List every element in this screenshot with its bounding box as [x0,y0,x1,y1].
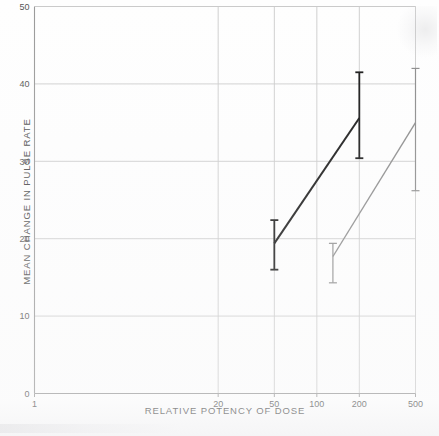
y-tick-label: 0 [24,389,29,399]
y-tick-label: 40 [19,79,29,89]
y-axis-title: MEAN CHANGE IN PULSE RATE [21,102,32,302]
y-tick-label: 10 [19,311,29,321]
x-axis-title: RELATIVE POTENCY OF DOSE [34,405,416,416]
y-tick-label: 50 [19,2,29,12]
data-line-series-grey [333,123,416,257]
line-chart-plot: 0102030405012050100200500 [0,0,439,436]
chart-figure: 0102030405012050100200500 MEAN CHANGE IN… [0,0,439,436]
